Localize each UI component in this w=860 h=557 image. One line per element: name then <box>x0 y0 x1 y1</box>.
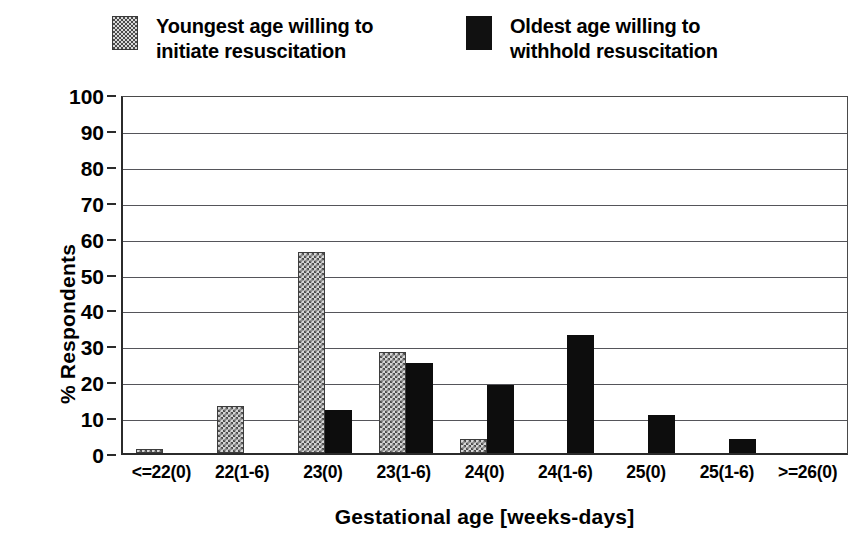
y-axis-tick-label: 80 <box>81 157 104 178</box>
gridline <box>123 241 847 242</box>
bar-oldest-4 <box>487 385 514 453</box>
black-swatch-icon <box>466 16 492 50</box>
y-axis-tick-label: 70 <box>81 193 104 214</box>
bar-oldest-7 <box>729 439 756 453</box>
y-axis-tick-label: 30 <box>81 337 104 358</box>
x-axis-title: Gestational age [weeks-days] <box>121 505 848 529</box>
y-axis-tick-mark <box>107 203 116 205</box>
y-axis-tick-label: 10 <box>81 409 104 430</box>
legend-label-oldest: Oldest age willing to withhold resuscita… <box>510 14 718 64</box>
y-axis-tick-label: 90 <box>81 121 104 142</box>
bar-oldest-6 <box>648 415 675 453</box>
x-axis-tick-label: >=26(0) <box>778 462 837 483</box>
legend-label-youngest: Youngest age willing to initiate resusci… <box>156 14 373 64</box>
y-axis-tick-label: 60 <box>81 229 104 250</box>
x-axis-tick-label: 23(0) <box>303 462 342 483</box>
bar-oldest-3 <box>406 363 433 453</box>
bar-oldest-5 <box>567 335 594 453</box>
gridline <box>123 312 847 313</box>
y-axis-tick-mark <box>107 95 116 97</box>
checkerboard-swatch-icon <box>112 16 138 50</box>
y-axis-tick-mark <box>107 239 116 241</box>
gridline <box>123 133 847 134</box>
y-axis-tick-mark <box>107 310 116 312</box>
x-axis-ticks: <=22(0)22(1-6)23(0)23(1-6)24(0)24(1-6)25… <box>121 462 848 488</box>
y-axis-tick-mark <box>107 275 116 277</box>
y-axis-tick-label: 0 <box>92 445 104 466</box>
y-axis-tick-mark <box>107 167 116 169</box>
plot-area <box>121 96 848 455</box>
y-axis-tick-label: 50 <box>81 265 104 286</box>
gridline <box>123 348 847 349</box>
y-axis-title: % Respondents <box>56 194 80 454</box>
gridline <box>123 277 847 278</box>
y-axis-tick-label: 40 <box>81 301 104 322</box>
x-axis-tick-label: 25(0) <box>626 462 665 483</box>
bar-oldest-2 <box>325 410 352 453</box>
chart-legend: Youngest age willing to initiate resusci… <box>0 8 860 70</box>
y-axis-tick-mark <box>107 346 116 348</box>
x-axis-tick-label: 25(1-6) <box>700 462 754 483</box>
bar-youngest-1 <box>217 406 244 453</box>
y-axis-tick-mark <box>107 418 116 420</box>
bar-youngest-3 <box>379 352 406 453</box>
gridline <box>123 169 847 170</box>
x-axis-tick-label: 23(1-6) <box>377 462 431 483</box>
y-axis-tick-mark <box>107 382 116 384</box>
bar-youngest-0 <box>136 449 163 453</box>
y-axis-tick-label: 20 <box>81 373 104 394</box>
bar-youngest-4 <box>460 439 487 453</box>
x-axis-tick-label: 24(0) <box>465 462 504 483</box>
legend-item-youngest: Youngest age willing to initiate resusci… <box>112 14 373 64</box>
y-axis: % Respondents 1009080706050403020100 <box>30 96 116 455</box>
gridline <box>123 384 847 385</box>
x-axis-tick-label: 22(1-6) <box>215 462 269 483</box>
x-axis-tick-label: 24(1-6) <box>538 462 592 483</box>
y-axis-tick-label: 100 <box>69 86 104 107</box>
bar-youngest-2 <box>298 252 325 453</box>
gridline <box>123 205 847 206</box>
legend-item-oldest: Oldest age willing to withhold resuscita… <box>466 14 718 64</box>
chart-figure: Youngest age willing to initiate resusci… <box>0 0 860 557</box>
y-axis-tick-mark <box>107 454 116 456</box>
x-axis-tick-label: <=22(0) <box>132 462 191 483</box>
y-axis-tick-mark <box>107 131 116 133</box>
